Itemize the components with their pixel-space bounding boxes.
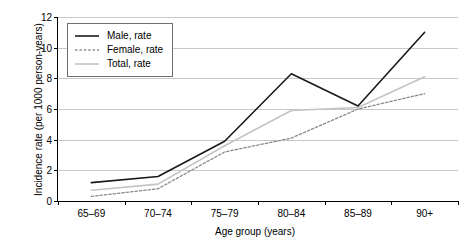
chart-legend: Male, rateFemale, rateTotal, rate <box>67 23 173 77</box>
y-tick-label: 4 <box>46 134 52 145</box>
chart-figure: Incidence rate (per 1000 person-years) 0… <box>0 0 472 247</box>
legend-swatch-line-icon <box>74 59 100 69</box>
y-tick-label: 6 <box>46 104 52 115</box>
y-axis-title: Incidence rate (per 1000 person-years) <box>33 10 44 210</box>
series-line <box>91 77 424 190</box>
legend-swatch-line-icon <box>74 45 100 55</box>
x-tick-mark <box>258 201 259 205</box>
legend-item: Male, rate <box>74 29 163 43</box>
legend-label: Total, rate <box>107 59 151 69</box>
x-tick-label: 90+ <box>416 208 433 219</box>
x-tick-label: 70–74 <box>144 208 172 219</box>
x-tick-mark <box>325 201 326 205</box>
x-tick-label: 80–84 <box>277 208 305 219</box>
x-tick-mark <box>125 201 126 205</box>
y-tick-label: 2 <box>46 165 52 176</box>
y-tick-label: 8 <box>46 73 52 84</box>
x-tick-mark <box>58 201 59 205</box>
x-axis-title: Age group (years) <box>45 226 465 237</box>
x-tick-mark <box>191 201 192 205</box>
y-tick-label: 0 <box>46 196 52 207</box>
legend-item: Total, rate <box>74 57 163 71</box>
x-tick-label: 85–89 <box>344 208 372 219</box>
x-tick-mark <box>391 201 392 205</box>
legend-label: Female, rate <box>107 45 163 55</box>
legend-label: Male, rate <box>107 31 151 41</box>
legend-swatch-line-icon <box>74 31 100 41</box>
x-tick-label: 65–69 <box>77 208 105 219</box>
y-tick-label: 10 <box>41 42 52 53</box>
series-line <box>91 94 424 197</box>
x-tick-mark <box>458 201 459 205</box>
y-tick-label: 12 <box>41 12 52 23</box>
legend-item: Female, rate <box>74 43 163 57</box>
x-tick-label: 75–79 <box>211 208 239 219</box>
